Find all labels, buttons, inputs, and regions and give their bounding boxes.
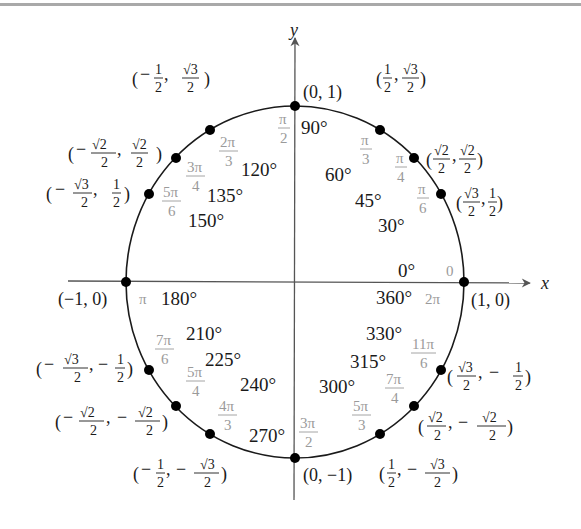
svg-text:2: 2	[157, 475, 164, 490]
svg-text:4: 4	[192, 178, 200, 194]
rad-pi-4: π4	[395, 150, 407, 185]
svg-text:√2: √2	[132, 137, 147, 152]
svg-text:3: 3	[224, 417, 232, 433]
svg-text:1: 1	[113, 177, 120, 192]
coord-45: ( √22 , √22 )	[426, 143, 483, 176]
deg-240: 240°	[240, 374, 276, 395]
point-270	[290, 453, 300, 463]
svg-text:2: 2	[305, 434, 313, 450]
svg-text:): )	[162, 412, 168, 433]
svg-text:2: 2	[146, 423, 153, 438]
svg-text:(: (	[418, 417, 424, 438]
svg-text:√3: √3	[200, 457, 215, 472]
svg-text:π: π	[361, 132, 369, 148]
svg-text:(: (	[132, 69, 138, 90]
svg-text:2: 2	[434, 475, 441, 490]
svg-text:−: −	[141, 459, 151, 479]
svg-text:√3: √3	[458, 360, 473, 375]
point-120	[205, 125, 215, 135]
deg-90: 90°	[301, 117, 328, 138]
svg-text:6: 6	[168, 203, 176, 219]
svg-text:(: (	[379, 464, 385, 485]
svg-text:1: 1	[117, 352, 124, 367]
point-315	[409, 401, 419, 411]
point-30	[436, 189, 446, 199]
coord-neg1-0: (−1, 0)	[58, 289, 107, 310]
deg-210: 210°	[186, 323, 222, 344]
svg-text:,: ,	[106, 407, 111, 427]
unit-circle-diagram: x y 0° 360° 30° 45° 60° 90° 120° 135° 15…	[0, 0, 581, 529]
svg-text:−: −	[44, 354, 54, 374]
svg-text:3π: 3π	[187, 159, 203, 175]
coord-330: ( √32 , − 12 )	[447, 360, 531, 393]
svg-text:,: ,	[89, 354, 94, 374]
rad-2pi-3: 2π3	[219, 134, 238, 169]
rad-7pi-6: 7π6	[155, 332, 174, 367]
coord-0-neg1: (0, −1)	[303, 465, 352, 486]
svg-text:π: π	[418, 181, 426, 197]
svg-text:): )	[204, 69, 210, 90]
rad-pi-6: π6	[417, 181, 429, 216]
svg-text:2: 2	[384, 80, 391, 95]
svg-text:2: 2	[388, 475, 395, 490]
svg-text:1: 1	[155, 62, 162, 77]
deg-150: 150°	[188, 210, 224, 231]
svg-text:−: −	[176, 459, 186, 479]
deg-135: 135°	[207, 185, 243, 206]
point-0	[459, 277, 469, 287]
deg-315: 315°	[350, 351, 386, 372]
svg-text:2: 2	[407, 80, 414, 95]
svg-text:−: −	[489, 362, 499, 382]
svg-text:1: 1	[388, 457, 395, 472]
rad-7pi-4: 7π4	[385, 371, 404, 406]
svg-text:√2: √2	[92, 137, 107, 152]
svg-text:1: 1	[157, 457, 164, 472]
svg-text:2: 2	[204, 475, 211, 490]
svg-text:): )	[507, 417, 513, 438]
coord-240: ( − 12 , − √32 )	[133, 457, 227, 490]
svg-text:2: 2	[280, 130, 288, 146]
deg-30: 30°	[378, 215, 405, 236]
svg-text:): )	[452, 464, 458, 485]
svg-text:): )	[127, 359, 133, 380]
svg-text:3: 3	[358, 417, 366, 433]
svg-text:2: 2	[155, 80, 162, 95]
svg-text:4: 4	[391, 390, 399, 406]
coord-60: ( 12 , √32 )	[376, 62, 426, 95]
svg-text:2: 2	[117, 370, 124, 385]
deg-330: 330°	[366, 323, 402, 344]
svg-text:(: (	[456, 193, 462, 214]
coord-135: ( − √22 , √22 )	[68, 137, 162, 170]
svg-text:3π: 3π	[300, 415, 316, 431]
svg-text:√2: √2	[80, 405, 95, 420]
svg-text:(: (	[68, 144, 74, 165]
svg-text:1: 1	[489, 186, 496, 201]
svg-text:2: 2	[463, 378, 470, 393]
svg-text:√3: √3	[464, 186, 479, 201]
coord-30: ( √32 , 12 )	[456, 186, 503, 219]
svg-text:√2: √2	[434, 143, 449, 158]
svg-text:π: π	[279, 111, 287, 127]
svg-text:,: ,	[166, 459, 171, 479]
svg-text:−: −	[76, 139, 86, 159]
svg-text:2: 2	[468, 204, 475, 219]
svg-text:2: 2	[136, 155, 143, 170]
svg-text:,: ,	[481, 188, 486, 208]
coord-0-1: (0, 1)	[303, 82, 342, 103]
svg-text:2: 2	[113, 195, 120, 210]
svg-text:√2: √2	[138, 405, 153, 420]
svg-text:4: 4	[192, 383, 200, 399]
point-300	[375, 429, 385, 439]
coord-1-0: (1, 0)	[471, 290, 510, 311]
point-45	[409, 153, 419, 163]
rad-pi-3: π3	[360, 132, 372, 167]
svg-text:−: −	[63, 407, 73, 427]
svg-text:,: ,	[164, 64, 169, 84]
svg-text:2: 2	[101, 155, 108, 170]
svg-text:6: 6	[161, 351, 169, 367]
svg-text:−: −	[458, 412, 468, 432]
svg-text:): )	[221, 464, 227, 485]
svg-text:,: ,	[448, 412, 453, 432]
x-axis-label: x	[540, 273, 549, 293]
point-135	[171, 153, 181, 163]
